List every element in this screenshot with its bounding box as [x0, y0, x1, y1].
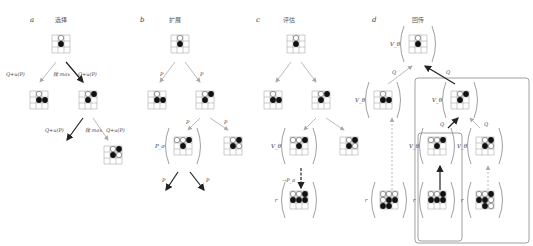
black-stone [58, 41, 64, 47]
right-paren [499, 128, 503, 164]
white-stone [434, 191, 439, 196]
node-value-label: P_σ [154, 143, 165, 150]
white-stone [116, 152, 121, 157]
go-board-d-leaf2 [428, 191, 446, 209]
arrow [190, 172, 204, 190]
edge-label: P [185, 119, 190, 125]
black-stone [270, 97, 276, 103]
panel-letter: a [30, 16, 34, 24]
white-stone [457, 91, 462, 96]
left-paren [468, 182, 472, 218]
black-stone [110, 152, 116, 158]
white-stone [428, 191, 433, 196]
black-stone [440, 137, 446, 143]
panel-title: 选择 [55, 16, 67, 24]
edge-label: P [205, 177, 210, 183]
go-board-a-l [30, 91, 48, 109]
panel-letter: c [256, 16, 260, 24]
white-stone [174, 137, 179, 142]
left-paren [282, 128, 286, 164]
black-stone [296, 197, 302, 203]
black-stone [440, 191, 446, 197]
arrow [326, 118, 344, 130]
left-paren [401, 26, 405, 62]
black-stone [463, 91, 469, 97]
right-paren [403, 182, 407, 218]
black-stone [346, 143, 352, 149]
go-board-a-rr [104, 146, 122, 164]
white-stone [110, 146, 115, 151]
left-paren [282, 182, 286, 218]
go-board-b-root [171, 35, 189, 53]
value-brackets: P_σV_θrV_θV_θV_θV_θV_θrrr [154, 26, 503, 218]
go-board-a-r [79, 91, 97, 109]
arrow [67, 118, 83, 140]
right-paren [499, 182, 503, 218]
go-board-d-leaf3 [476, 191, 494, 209]
go-board-a-root [52, 35, 70, 53]
go-board-d-l [374, 91, 392, 109]
black-stone [352, 137, 358, 143]
go-board-b-l [148, 91, 166, 109]
black-stone [415, 41, 421, 47]
black-stone [293, 41, 299, 47]
black-stone [318, 97, 324, 103]
edge-label: Q [446, 69, 450, 75]
white-stone [434, 137, 439, 142]
white-stone [380, 191, 385, 196]
black-stone [180, 143, 186, 149]
black-stone [230, 143, 236, 149]
white-stone [177, 35, 182, 40]
panel-title: 扩展 [169, 16, 181, 24]
go-board-d-root [409, 35, 427, 53]
edge-label: 找 max [85, 127, 102, 133]
go-board-c-root [287, 35, 305, 53]
left-paren [420, 182, 424, 218]
node-value-label: V_θ [355, 97, 366, 104]
edge-labels: Q+u(P)找 maxQ+u(P)Q+u(P)找 maxQ+u(P)PPPPPP… [6, 69, 488, 184]
go-board-c-l [264, 91, 282, 109]
edge-label: Q+u(P) [78, 71, 97, 77]
board-nodes [30, 35, 494, 209]
node-value-label: V_θ [390, 41, 401, 48]
white-stone [236, 143, 241, 148]
edges [40, 62, 488, 190]
edge-label: Q+u(P) [106, 127, 125, 133]
right-paren [451, 182, 455, 218]
arrow [301, 62, 316, 82]
black-stone [440, 197, 446, 203]
node-value-label: V_θ [432, 97, 443, 104]
black-stone [434, 197, 440, 203]
white-stone [230, 137, 235, 142]
black-stone [42, 97, 48, 103]
white-stone [482, 137, 487, 142]
white-stone [270, 91, 275, 96]
diagram-canvas: P_σV_θrV_θV_θV_θV_θV_θrrr Q+u(P)找 maxQ+u… [0, 0, 533, 246]
black-stone [434, 143, 440, 149]
black-stone [324, 91, 330, 97]
white-stone [392, 191, 397, 196]
go-board-d-rl [428, 137, 446, 155]
white-stone [202, 91, 207, 96]
node-value-label: r [413, 197, 416, 203]
go-board-c-rr [340, 137, 358, 155]
white-stone [488, 203, 493, 208]
node-value-label: V_θ [271, 143, 282, 150]
left-paren [372, 182, 376, 218]
black-stone [482, 203, 488, 209]
arrow [166, 172, 178, 190]
black-stone [386, 203, 392, 209]
arrow [276, 62, 291, 82]
edge-label: P [199, 71, 204, 77]
black-stone [36, 97, 42, 103]
white-stone [290, 191, 295, 196]
black-stone [380, 97, 386, 103]
white-stone [296, 137, 301, 142]
edge-label: Q+u(P) [6, 71, 25, 77]
left-paren [468, 128, 472, 164]
arrow [425, 66, 455, 84]
go-board-c-r [312, 91, 330, 109]
black-stone [202, 97, 208, 103]
white-stone [290, 137, 295, 142]
black-stone [296, 143, 302, 149]
